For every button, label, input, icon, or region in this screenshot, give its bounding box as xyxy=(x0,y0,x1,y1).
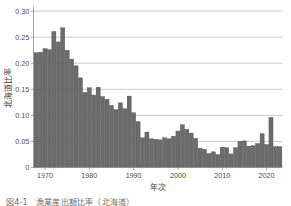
bar xyxy=(65,50,69,167)
bar xyxy=(136,122,140,168)
bar xyxy=(154,139,158,167)
bar xyxy=(220,147,224,167)
y-tick-label: 0.15 xyxy=(15,85,29,94)
bar xyxy=(216,154,220,167)
bar xyxy=(70,59,74,167)
bar xyxy=(78,78,82,168)
bar xyxy=(234,148,238,168)
x-tick-label: 1990 xyxy=(126,171,142,180)
bar xyxy=(96,87,100,167)
bar xyxy=(198,148,202,167)
y-axis-title: 北海道比率 xyxy=(3,68,13,108)
bar xyxy=(61,28,65,168)
bar-chart-svg: 00.050.100.150.200.250.30 19701980199020… xyxy=(0,0,291,206)
bar xyxy=(149,139,153,168)
figure-caption: 図4-1 漁業産出額比率（北海道） xyxy=(6,196,134,206)
bar xyxy=(256,144,260,168)
bar xyxy=(238,141,242,167)
x-tick-label: 2000 xyxy=(170,171,186,180)
x-tick-label: 2010 xyxy=(214,171,230,180)
x-tick-label: 1980 xyxy=(81,171,97,180)
bar xyxy=(140,138,144,168)
bar xyxy=(211,152,215,168)
bar xyxy=(39,52,43,167)
bar xyxy=(47,50,51,168)
bar xyxy=(185,129,189,167)
bar xyxy=(180,125,184,168)
bar xyxy=(101,97,105,168)
x-axis-title: 年次 xyxy=(150,182,166,192)
bar xyxy=(87,88,91,168)
chart-figure: 00.050.100.150.200.250.30 19701980199020… xyxy=(0,0,291,206)
bar xyxy=(247,146,251,167)
bar xyxy=(260,134,264,168)
bar xyxy=(189,133,193,167)
bar xyxy=(278,147,282,168)
bar xyxy=(194,138,198,167)
bar xyxy=(176,131,180,167)
y-tick-label: 0.05 xyxy=(15,137,29,146)
bar xyxy=(163,138,167,168)
bar xyxy=(132,113,136,168)
bar xyxy=(127,96,131,167)
bar xyxy=(114,110,118,168)
bar xyxy=(74,66,78,168)
bar xyxy=(105,99,109,167)
y-tick-label: 0 xyxy=(25,163,29,172)
bar xyxy=(92,95,96,167)
bar xyxy=(171,136,175,167)
bar xyxy=(167,139,171,168)
bar xyxy=(118,103,122,168)
bar xyxy=(109,105,113,167)
y-tick-label: 0.20 xyxy=(15,59,29,68)
bar xyxy=(225,148,229,168)
y-tick-label: 0.10 xyxy=(15,111,29,120)
bar xyxy=(83,92,87,167)
x-tick-label: 1970 xyxy=(37,171,53,180)
bar xyxy=(158,140,162,168)
bar xyxy=(269,117,273,167)
bar xyxy=(251,146,255,168)
bar xyxy=(207,153,211,167)
bar xyxy=(145,132,149,167)
bar xyxy=(56,42,60,168)
bar xyxy=(265,145,269,168)
bar xyxy=(242,141,246,168)
x-tick-label: 2020 xyxy=(259,171,275,180)
bar xyxy=(43,49,47,168)
bar xyxy=(229,154,233,168)
y-tick-label: 0.25 xyxy=(15,33,29,42)
y-tick-label: 0.30 xyxy=(15,7,29,16)
bar xyxy=(34,53,38,168)
bar xyxy=(52,31,56,167)
bar xyxy=(202,149,206,167)
bar xyxy=(273,147,277,168)
bar xyxy=(123,109,127,168)
